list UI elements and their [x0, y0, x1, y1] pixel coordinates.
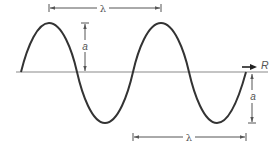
wave-diagram: λ λ a a R: [0, 0, 277, 151]
amplitude-label-left: a: [82, 41, 88, 52]
wavelength-dimension-bottom: λ: [133, 132, 246, 143]
sine-wave: [21, 23, 246, 123]
direction-arrow-icon: [242, 64, 257, 70]
amplitude-dimension-left: a: [81, 23, 89, 71]
amplitude-label-right: a: [250, 91, 256, 102]
direction-label: R: [261, 59, 269, 71]
wavelength-label-top: λ: [100, 3, 107, 14]
wavelength-label-bottom: λ: [186, 132, 193, 143]
wavelength-dimension-top: λ: [49, 3, 161, 14]
amplitude-dimension-right: a: [248, 74, 256, 123]
